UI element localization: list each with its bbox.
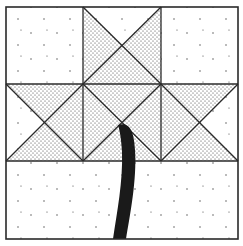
top-left-square bbox=[6, 7, 83, 84]
top-right-square bbox=[161, 7, 238, 84]
quilt-block-diagram bbox=[0, 0, 243, 246]
